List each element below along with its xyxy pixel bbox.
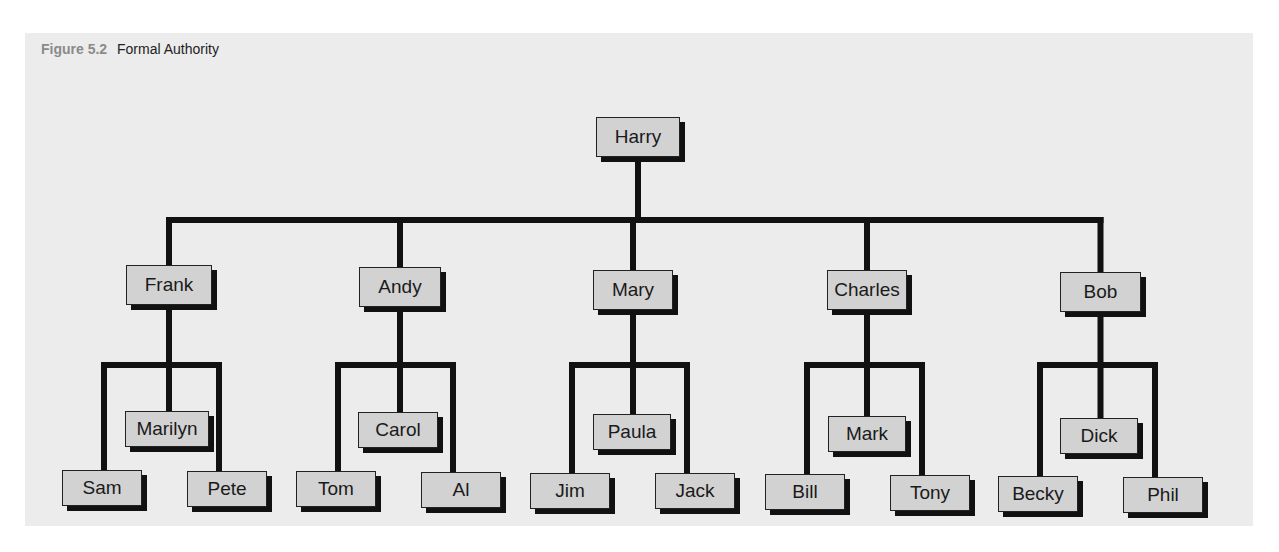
org-node-bill: Bill bbox=[765, 474, 845, 510]
org-node-carol: Carol bbox=[358, 412, 438, 448]
org-node-label: Andy bbox=[378, 276, 421, 298]
org-node-label: Charles bbox=[834, 279, 899, 301]
org-node-pete: Pete bbox=[187, 471, 267, 507]
org-node-andy: Andy bbox=[359, 267, 441, 307]
org-node-becky: Becky bbox=[998, 476, 1078, 512]
org-node-jack: Jack bbox=[655, 473, 735, 509]
org-node-label: Frank bbox=[145, 274, 194, 296]
org-node-label: Tom bbox=[318, 478, 354, 500]
org-node-dick: Dick bbox=[1060, 418, 1138, 454]
org-node-label: Becky bbox=[1012, 483, 1064, 505]
org-node-sam: Sam bbox=[62, 470, 142, 506]
org-node-label: Carol bbox=[375, 419, 420, 441]
org-node-label: Jim bbox=[555, 480, 585, 502]
org-node-label: Phil bbox=[1147, 484, 1179, 506]
org-node-label: Mary bbox=[612, 279, 654, 301]
org-node-phil: Phil bbox=[1123, 477, 1203, 513]
org-node-tony: Tony bbox=[890, 475, 970, 511]
org-node-label: Al bbox=[453, 479, 470, 501]
org-node-marilyn: Marilyn bbox=[125, 411, 209, 447]
org-node-label: Harry bbox=[615, 126, 661, 148]
org-node-label: Pete bbox=[207, 478, 246, 500]
org-node-label: Paula bbox=[608, 421, 657, 443]
org-node-label: Bill bbox=[792, 481, 817, 503]
org-node-paula: Paula bbox=[593, 414, 671, 450]
org-node-tom: Tom bbox=[296, 471, 376, 507]
org-node-harry: Harry bbox=[596, 117, 680, 157]
org-node-label: Marilyn bbox=[136, 418, 197, 440]
org-node-label: Sam bbox=[82, 477, 121, 499]
org-node-charles: Charles bbox=[827, 270, 907, 310]
org-node-mark: Mark bbox=[828, 416, 906, 452]
org-node-bob: Bob bbox=[1060, 272, 1141, 312]
org-node-al: Al bbox=[421, 472, 501, 508]
org-node-label: Bob bbox=[1084, 281, 1118, 303]
org-node-label: Tony bbox=[910, 482, 950, 504]
org-node-jim: Jim bbox=[530, 473, 610, 509]
org-node-label: Dick bbox=[1081, 425, 1118, 447]
org-node-label: Mark bbox=[846, 423, 888, 445]
org-node-label: Jack bbox=[675, 480, 714, 502]
org-node-frank: Frank bbox=[126, 265, 212, 305]
org-node-mary: Mary bbox=[593, 270, 673, 310]
